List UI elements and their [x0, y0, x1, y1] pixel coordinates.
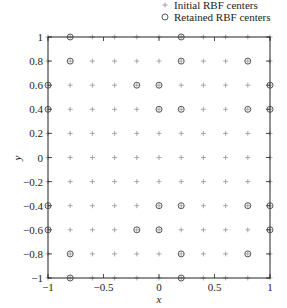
initial-center-point [201, 107, 206, 112]
x-tick-label: 1 [267, 281, 273, 293]
y-tick-label: 0.6 [29, 79, 43, 91]
initial-center-point [134, 83, 139, 88]
initial-center-point [68, 107, 73, 112]
initial-center-point [179, 251, 184, 256]
initial-center-point [245, 251, 250, 256]
initial-center-point [68, 179, 73, 184]
initial-center-point [179, 227, 184, 232]
axes: −1−0.500.5110.80.60.40.20−0.2−0.4−0.6−0.… [23, 31, 273, 293]
initial-center-point [157, 203, 162, 208]
initial-center-point [134, 107, 139, 112]
y-tick-label: 0.8 [29, 55, 43, 67]
initial-center-point [68, 251, 73, 256]
x-tick-label: −1 [42, 281, 54, 293]
initial-center-point [179, 155, 184, 160]
legend-label-retained: Retained RBF centers [174, 11, 271, 23]
initial-center-point [179, 179, 184, 184]
initial-center-point [90, 59, 95, 64]
initial-center-point [157, 179, 162, 184]
initial-center-point [90, 131, 95, 136]
initial-center-point [157, 83, 162, 88]
initial-center-point [157, 131, 162, 136]
initial-center-point [112, 83, 117, 88]
initial-center-point [245, 227, 250, 232]
x-tick-label: −0.5 [94, 281, 114, 293]
initial-center-point [134, 155, 139, 160]
initial-center-point [157, 227, 162, 232]
initial-center-point [134, 203, 139, 208]
initial-center-point [68, 155, 73, 160]
initial-center-point [134, 179, 139, 184]
initial-center-point [179, 83, 184, 88]
initial-center-point [245, 59, 250, 64]
initial-center-point [157, 59, 162, 64]
legend-label-initial: Initial RBF centers [174, 0, 258, 11]
y-axis-label: y [11, 155, 23, 161]
initial-center-point [112, 203, 117, 208]
initial-center-point [68, 83, 73, 88]
y-tick-label: −0.6 [23, 224, 43, 236]
initial-center-point [112, 227, 117, 232]
initial-center-point [90, 107, 95, 112]
initial-center-point [223, 203, 228, 208]
chart: Initial RBF centers Retained RBF centers… [0, 0, 287, 308]
initial-center-point [245, 131, 250, 136]
initial-center-point [201, 155, 206, 160]
initial-center-point [223, 131, 228, 136]
initial-center-point [201, 251, 206, 256]
y-tick-label: 0 [38, 152, 44, 164]
initial-center-point [68, 203, 73, 208]
initial-center-point [134, 131, 139, 136]
initial-center-point [157, 251, 162, 256]
y-tick-label: −0.2 [23, 176, 43, 188]
initial-center-point [201, 179, 206, 184]
initial-center-point [90, 203, 95, 208]
initial-center-point [90, 251, 95, 256]
initial-center-point [68, 227, 73, 232]
initial-center-point [245, 179, 250, 184]
initial-center-point [201, 83, 206, 88]
initial-center-point [223, 155, 228, 160]
initial-center-point [201, 131, 206, 136]
y-tick-label: 0.4 [29, 103, 43, 115]
initial-center-point [112, 59, 117, 64]
legend-item-initial: Initial RBF centers [163, 0, 258, 11]
initial-center-point [157, 155, 162, 160]
initial-center-point [223, 227, 228, 232]
initial-center-point [223, 179, 228, 184]
initial-center-point [90, 227, 95, 232]
legend: Initial RBF centers Retained RBF centers [162, 0, 271, 23]
initial-center-point [245, 203, 250, 208]
initial-center-point [201, 203, 206, 208]
initial-center-point [134, 59, 139, 64]
legend-circle-marker-icon [162, 14, 168, 20]
initial-center-point [179, 59, 184, 64]
x-tick-label: 0.5 [208, 281, 222, 293]
legend-plus-marker-icon [163, 3, 168, 8]
y-tick-label: 1 [38, 31, 44, 43]
initial-center-point [112, 155, 117, 160]
y-tick-label: −0.8 [23, 248, 43, 260]
legend-item-retained: Retained RBF centers [162, 11, 271, 23]
initial-center-point [90, 83, 95, 88]
initial-center-point [223, 83, 228, 88]
initial-center-point [134, 227, 139, 232]
initial-center-point [68, 131, 73, 136]
initial-center-point [112, 179, 117, 184]
initial-center-point [201, 59, 206, 64]
y-tick-label: −1 [31, 272, 43, 284]
initial-center-point [179, 107, 184, 112]
initial-center-point [157, 107, 162, 112]
initial-center-point [90, 155, 95, 160]
initial-center-point [223, 107, 228, 112]
initial-center-point [90, 179, 95, 184]
initial-center-point [245, 155, 250, 160]
initial-center-point [112, 107, 117, 112]
initial-center-point [112, 131, 117, 136]
y-tick-label: 0.2 [29, 127, 43, 139]
initial-center-point [223, 251, 228, 256]
initial-center-point [201, 227, 206, 232]
initial-center-point [223, 59, 228, 64]
x-axis-label: x [156, 293, 162, 305]
x-tick-label: 0 [156, 281, 162, 293]
